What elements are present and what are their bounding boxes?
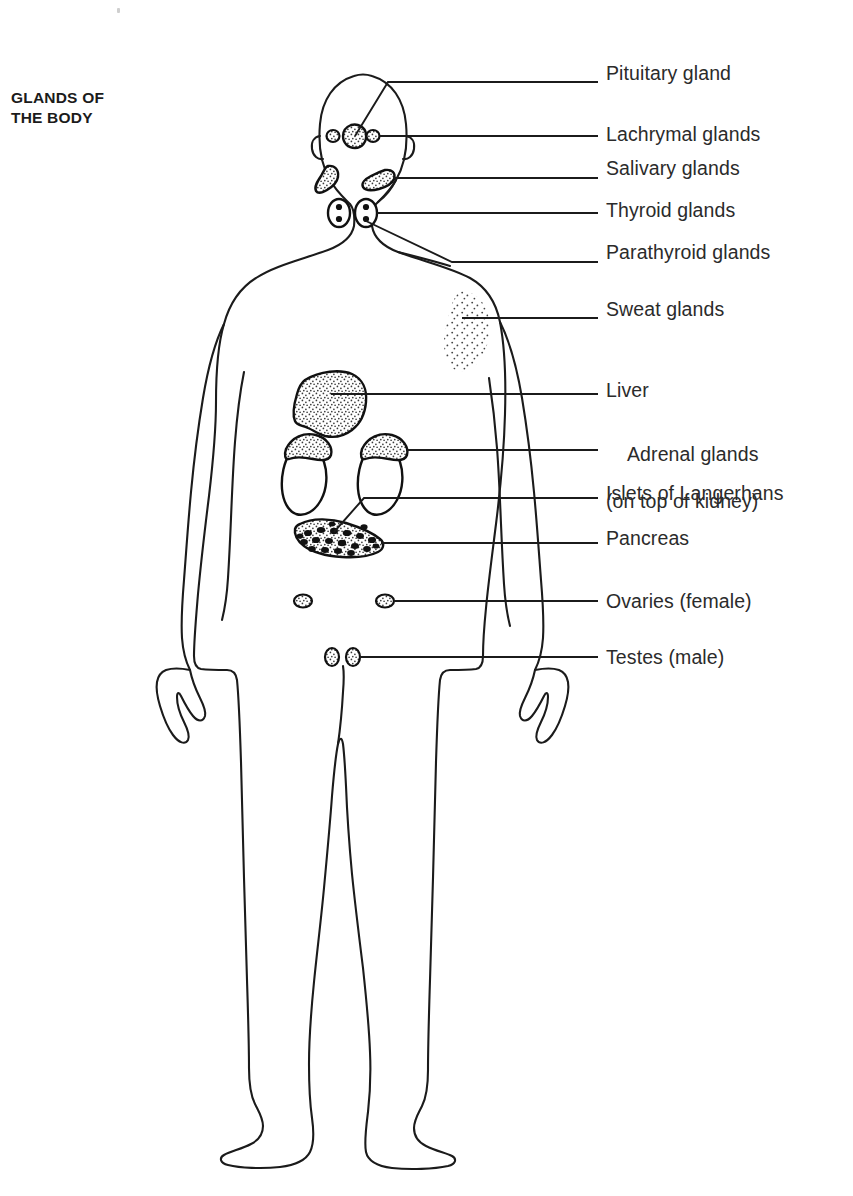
scan-speck-artifact <box>117 8 120 13</box>
label-parathyroid-glands: Parathyroid glands <box>606 241 770 264</box>
parathyroid-gland-1 <box>336 204 342 210</box>
lachrymal-gland-left <box>327 130 340 142</box>
figure-title-line-2: THE BODY <box>11 108 211 128</box>
label-islets-of-langerhans: Islets of Langerhans <box>606 482 784 505</box>
parathyroid-gland-2 <box>336 216 342 222</box>
label-thyroid-glands: Thyroid glands <box>606 199 735 222</box>
right-hand <box>520 669 569 743</box>
label-sweat-glands: Sweat glands <box>606 298 724 321</box>
label-lachrymal-glands: Lachrymal glands <box>606 123 760 146</box>
figure-title-line-1: GLANDS OF <box>11 88 211 108</box>
body-silhouette <box>194 75 505 1170</box>
label-pancreas: Pancreas <box>606 527 689 550</box>
liver <box>294 371 367 436</box>
right-arm-outline <box>500 322 543 670</box>
testis-left <box>325 648 339 666</box>
label-ovaries: Ovaries (female) <box>606 590 752 613</box>
lachrymal-gland-right <box>367 130 380 142</box>
body-outline-group <box>157 75 569 1170</box>
ovary-left <box>294 595 312 608</box>
label-pituitary-gland: Pituitary gland <box>606 62 731 85</box>
glands-of-the-body-figure: GLANDS OF THE BODY <box>0 0 853 1196</box>
label-adrenal-glands-line-1: Adrenal glands <box>627 443 759 465</box>
left-hand <box>157 669 206 743</box>
pituitary-gland <box>343 124 366 148</box>
label-liver: Liver <box>606 379 649 402</box>
parathyroid-gland-3 <box>363 204 369 210</box>
figure-title: GLANDS OF THE BODY <box>11 88 211 129</box>
thyroid-gland-right <box>355 199 377 227</box>
label-testes: Testes (male) <box>606 646 724 669</box>
label-salivary-glands: Salivary glands <box>606 157 740 180</box>
thyroid-gland-left <box>328 199 350 227</box>
testis-right <box>346 648 360 666</box>
ovary-right <box>376 595 394 608</box>
